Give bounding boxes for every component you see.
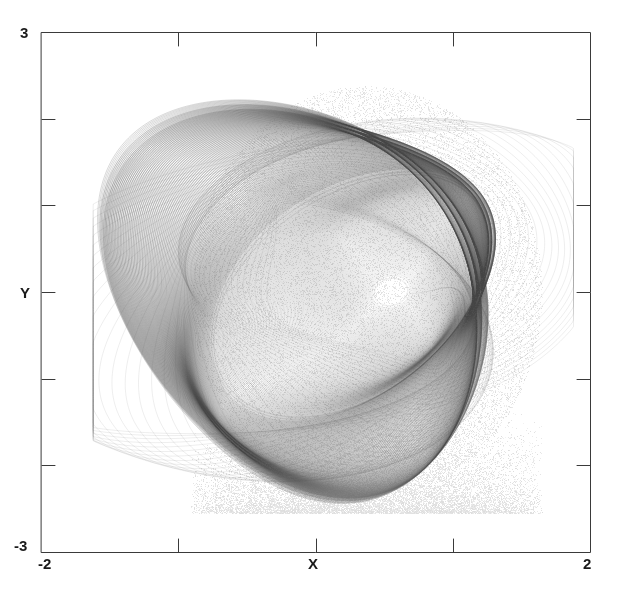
x-axis-max-label: 2 — [583, 556, 591, 571]
x-axis-min-label: -2 — [38, 556, 51, 571]
y-axis-title: Y — [20, 285, 30, 300]
figure-panel: 3 -3 -2 2 X Y — [0, 0, 617, 601]
y-axis-min-label: -3 — [14, 538, 27, 553]
y-axis-max-label: 3 — [20, 25, 28, 40]
x-axis-title: X — [308, 556, 318, 571]
phase-portrait-canvas — [0, 0, 617, 601]
